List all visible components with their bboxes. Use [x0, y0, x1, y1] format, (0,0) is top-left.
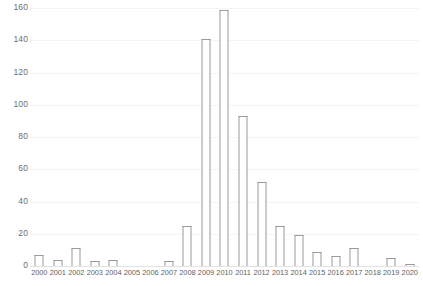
y-tick-label: 100 — [2, 100, 28, 109]
x-tick-label: 2001 — [49, 268, 68, 278]
x-tick-label: 2016 — [326, 268, 345, 278]
x-tick-label: 2008 — [178, 268, 197, 278]
bar[interactable] — [294, 235, 303, 266]
bar[interactable] — [257, 182, 266, 266]
y-tick-label: 80 — [2, 132, 28, 141]
y-tick-label: 0 — [2, 261, 28, 270]
bar-slot — [86, 0, 105, 266]
bar-slot — [345, 0, 364, 266]
bar-slot — [400, 0, 419, 266]
bar[interactable] — [405, 264, 414, 266]
bar[interactable] — [239, 116, 248, 266]
bar-slot — [308, 0, 327, 266]
bar[interactable] — [90, 261, 99, 266]
bar[interactable] — [350, 248, 359, 266]
x-tick-label: 2017 — [345, 268, 364, 278]
x-axis: 2000200120022003200420052006200720082009… — [30, 268, 419, 284]
bar-slot — [252, 0, 271, 266]
bar-slot — [49, 0, 68, 266]
x-tick-label: 2002 — [67, 268, 86, 278]
bar[interactable] — [72, 248, 81, 266]
x-tick-label: 2007 — [160, 268, 179, 278]
bar-slot — [141, 0, 160, 266]
bar-slot — [215, 0, 234, 266]
bar[interactable] — [387, 258, 396, 266]
x-tick-label: 2013 — [271, 268, 290, 278]
bar-slot — [67, 0, 86, 266]
bar-slot — [123, 0, 142, 266]
y-tick-label: 40 — [2, 197, 28, 206]
y-tick-label: 160 — [2, 3, 28, 12]
bars-layer — [30, 0, 419, 266]
y-tick-label: 20 — [2, 229, 28, 238]
x-tick-label: 2011 — [234, 268, 253, 278]
y-tick-label: 60 — [2, 164, 28, 173]
x-tick-label: 2014 — [289, 268, 308, 278]
y-axis: 020406080100120140160 — [0, 0, 28, 286]
y-tick-label: 120 — [2, 68, 28, 77]
x-tick-label: 2005 — [123, 268, 142, 278]
x-tick-label: 2018 — [363, 268, 382, 278]
bar-slot — [30, 0, 49, 266]
bar-slot — [197, 0, 216, 266]
bar-slot — [271, 0, 290, 266]
x-tick-label: 2012 — [252, 268, 271, 278]
bar-slot — [382, 0, 401, 266]
bar[interactable] — [276, 226, 285, 266]
bar[interactable] — [109, 260, 118, 266]
bar[interactable] — [313, 252, 322, 267]
bar[interactable] — [53, 260, 62, 266]
bar-slot — [178, 0, 197, 266]
x-tick-label: 2009 — [197, 268, 216, 278]
x-tick-label: 2003 — [86, 268, 105, 278]
bar[interactable] — [220, 10, 229, 266]
x-tick-label: 2000 — [30, 268, 49, 278]
bar[interactable] — [35, 255, 44, 266]
bar-chart: 020406080100120140160 200020012002200320… — [0, 0, 423, 286]
x-tick-label: 2019 — [382, 268, 401, 278]
bar[interactable] — [201, 39, 210, 266]
bar-slot — [326, 0, 345, 266]
x-tick-label: 2010 — [215, 268, 234, 278]
x-tick-label: 2006 — [141, 268, 160, 278]
bar-slot — [289, 0, 308, 266]
bar-slot — [234, 0, 253, 266]
x-tick-label: 2004 — [104, 268, 123, 278]
y-tick-label: 140 — [2, 35, 28, 44]
bar[interactable] — [331, 256, 340, 266]
bar-slot — [160, 0, 179, 266]
bar[interactable] — [183, 226, 192, 266]
bar-slot — [363, 0, 382, 266]
x-tick-label: 2015 — [308, 268, 327, 278]
bar[interactable] — [164, 261, 173, 266]
x-axis-baseline — [30, 266, 419, 267]
bar-slot — [104, 0, 123, 266]
x-tick-label: 2020 — [400, 268, 419, 278]
